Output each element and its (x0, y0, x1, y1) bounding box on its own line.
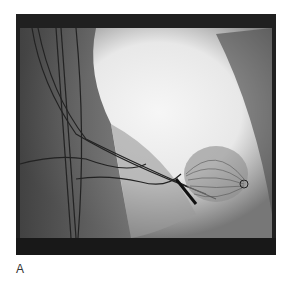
panel-label: A (16, 262, 24, 276)
fluoroscopy-image (16, 14, 276, 255)
xray-graphic (16, 14, 276, 255)
mesh-device (184, 146, 248, 202)
